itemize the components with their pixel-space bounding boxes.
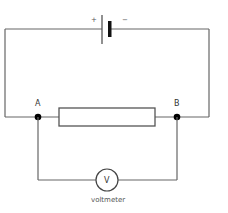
circuit-diagram: + − A B V voltmeter (0, 0, 228, 213)
resistor (59, 108, 155, 126)
positive-terminal-label: + (91, 16, 97, 24)
node-a-label: A (35, 99, 41, 108)
cell-negative-plate (108, 21, 112, 37)
node-b-label: B (174, 99, 180, 108)
negative-terminal-label: − (122, 16, 128, 24)
voltmeter-symbol: V (104, 176, 110, 185)
voltmeter-label: voltmeter (91, 196, 125, 204)
